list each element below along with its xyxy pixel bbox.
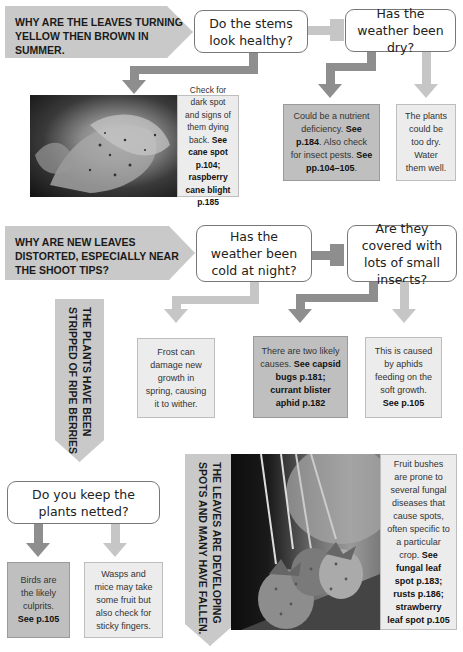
arrow-down-icon: [392, 309, 416, 323]
leaf-spot-photo: [30, 95, 177, 197]
leaf-image: [30, 95, 177, 197]
arrow-down-icon: [288, 309, 312, 323]
question-banner-leaf-spots: THE LEAVES ARE DEVELOPING SPOTS AND MANY…: [185, 454, 235, 646]
page-reference: See p.105: [18, 614, 60, 624]
arrow-connector: [130, 66, 258, 74]
question-cold-nights: Has the weather been cold at night?: [196, 225, 312, 282]
answer-too-dry: The plants could be too dry. Water them …: [396, 104, 456, 181]
arrow-down-icon: [318, 84, 342, 98]
answer-cane-spot: Check for dark spot and signs of them dy…: [177, 95, 239, 197]
strawberry-image: [231, 454, 380, 630]
arrow-connector: [312, 251, 330, 260]
question-stems-healthy: Do the stems look healthy?: [194, 10, 308, 53]
arrow-connector: [296, 294, 305, 310]
arrow-connector: [172, 296, 181, 310]
arrow-connector: [172, 296, 259, 304]
banner-text: THE PLANTS HAVE BEEN STRIPPED OF RIPE BE…: [66, 307, 94, 457]
answer-nutrient-deficiency: Could be a nutrient deficiency. See p.18…: [283, 104, 380, 181]
arrow-down-icon: [122, 80, 146, 94]
arrow-connector: [34, 524, 43, 544]
answer-fungal-diseases: Fruit bushes are prone to several fungal…: [380, 454, 457, 630]
question-small-insects: Are they covered with lots of small inse…: [347, 225, 457, 282]
arrow-down-icon: [164, 309, 188, 323]
page-reference: See fungal leaf spot p.183; rusts p.186;…: [387, 550, 450, 625]
strawberry-photo: [231, 454, 380, 630]
arrow-down-icon: [103, 543, 127, 557]
arrow-right-icon: [330, 244, 344, 266]
answer-wasps-mice: Wasps and mice may take some fruit but a…: [84, 562, 163, 638]
question-plants-netted: Do you keep the plants netted?: [7, 481, 160, 524]
answer-birds: Birds are the likely culprits. See p.105: [7, 562, 70, 638]
banner-text: THE LEAVES ARE DEVELOPING SPOTS AND MANY…: [196, 462, 224, 635]
arrow-connector: [111, 524, 120, 544]
answer-frost-damage: Frost can damage new growth in spring, c…: [137, 338, 215, 418]
banner-text: WHY ARE THE LEAVES TURNING YELLOW THEN B…: [15, 16, 183, 56]
arrow-down-icon: [26, 543, 50, 557]
question-banner-distorted-leaves: WHY ARE NEW LEAVES DISTORTED, ESPECIALLY…: [5, 226, 195, 280]
arrow-right-icon: [330, 19, 344, 41]
question-banner-stripped-berries: THE PLANTS HAVE BEEN STRIPPED OF RIPE BE…: [55, 299, 104, 462]
arrow-connector: [400, 282, 409, 310]
arrow-connector: [326, 63, 335, 85]
arrow-connector: [422, 52, 431, 84]
answer-two-causes: There are two likely causes. See capsid …: [253, 336, 348, 418]
answer-aphids: This is caused by aphids feeding on the …: [365, 337, 442, 418]
question-weather-dry: Has the weather been dry?: [345, 9, 456, 52]
question-banner-yellow-leaves: WHY ARE THE LEAVES TURNING YELLOW THEN B…: [5, 6, 193, 58]
arrow-connector: [296, 294, 378, 302]
page-reference: See p.105: [383, 398, 425, 408]
arrow-down-icon: [414, 84, 438, 98]
banner-text: WHY ARE NEW LEAVES DISTORTED, ESPECIALLY…: [15, 236, 179, 276]
arrow-connector: [130, 66, 139, 81]
page-reference: See cane spot p.104; raspberry cane blig…: [186, 135, 231, 208]
arrow-right-connector: [308, 26, 330, 35]
